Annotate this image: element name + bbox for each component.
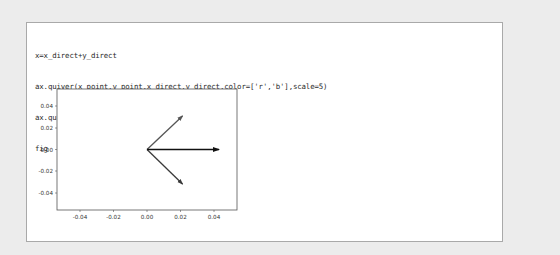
y-tick-label: 0.02 (41, 125, 53, 131)
x-tick-label: -0.02 (106, 214, 120, 220)
x-tick-label: 0.04 (208, 214, 221, 220)
y-tick-label: -0.02 (39, 168, 53, 174)
y-tick-label: 0.04 (41, 103, 54, 109)
x-tick-label: 0.00 (141, 214, 154, 220)
y-tick-label: 0.00 (41, 147, 54, 153)
x-tick-label: -0.04 (73, 214, 88, 220)
y-tick-label: -0.04 (39, 190, 54, 196)
y-axis: 0.04 0.02 0.00 -0.02 -0.04 (39, 103, 57, 196)
x-axis: -0.04 -0.02 0.00 0.02 0.04 (73, 210, 221, 220)
x-tick-label: 0.02 (174, 214, 186, 220)
quiver-plot: 0.04 0.02 0.00 -0.02 -0.04 -0.04 -0.02 0… (0, 0, 560, 255)
